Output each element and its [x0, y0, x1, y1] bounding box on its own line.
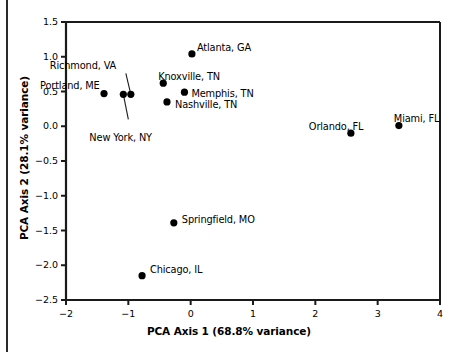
y-tick-label: −1.5	[28, 225, 58, 236]
data-point-marker[interactable]	[188, 50, 195, 57]
data-point-label: Knoxville, TN	[158, 71, 220, 82]
x-tick-label: 0	[176, 308, 206, 319]
y-tick-label: −2.5	[28, 294, 58, 305]
data-point-label: Springfield, MO	[182, 214, 255, 225]
data-point-marker[interactable]	[163, 98, 170, 105]
data-point-marker[interactable]	[181, 89, 188, 96]
data-point-marker[interactable]	[170, 219, 177, 226]
x-tick-label: 2	[300, 308, 330, 319]
y-tick-label: 0.0	[28, 120, 58, 131]
pca-scatter-figure: PCA Axis 1 (68.8% variance) PCA Axis 2 (…	[0, 0, 458, 352]
data-point-label: New York, NY	[89, 132, 152, 143]
x-tick-label: 1	[238, 308, 268, 319]
data-point-label: Atlanta, GA	[197, 42, 251, 53]
data-point-marker[interactable]	[127, 91, 134, 98]
data-point-label: Chicago, IL	[150, 264, 202, 275]
x-tick-label: −1	[113, 308, 143, 319]
data-point-label: Richmond, VA	[50, 60, 116, 71]
x-tick-label: 4	[425, 308, 455, 319]
data-point-label: Portland, ME	[40, 80, 100, 91]
y-tick-label: −2.0	[28, 259, 58, 270]
x-tick-label: 3	[363, 308, 393, 319]
data-point-marker[interactable]	[100, 90, 107, 97]
data-point-marker[interactable]	[138, 272, 145, 279]
data-point-label: Miami, FL	[394, 113, 439, 124]
data-point-label: Nashville, TN	[175, 99, 237, 110]
y-tick-label: 1.5	[28, 16, 58, 27]
data-point-label: Memphis, TN	[191, 88, 253, 99]
label-leader-line	[123, 94, 128, 119]
y-tick-label: −1.0	[28, 190, 58, 201]
x-axis-title: PCA Axis 1 (68.8% variance)	[0, 325, 458, 337]
x-tick-label: −2	[51, 308, 81, 319]
data-point-marker[interactable]	[120, 91, 127, 98]
data-point-label: Orlando, FL	[309, 121, 364, 132]
y-tick-label: −0.5	[28, 155, 58, 166]
